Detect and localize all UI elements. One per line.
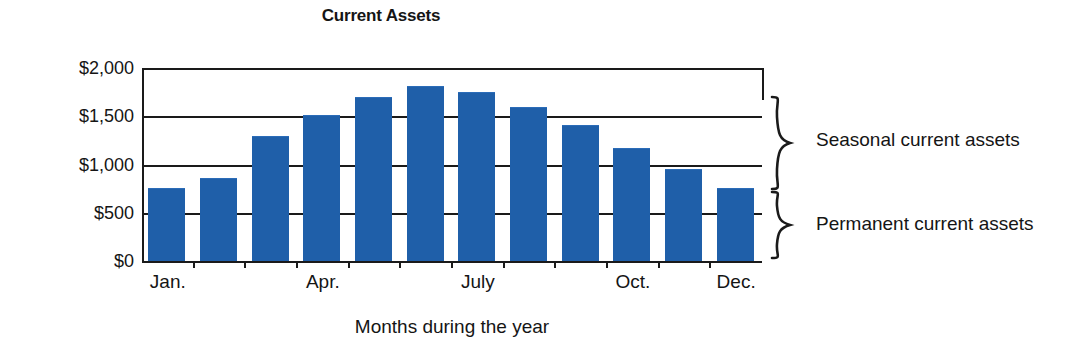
seasonal-assets-label: Seasonal current assets: [816, 128, 1066, 152]
x-axis-caption: Months during the year: [142, 316, 762, 338]
bar-jan: [148, 188, 185, 261]
bar-july: [458, 92, 495, 261]
bar-sept: [562, 125, 599, 261]
bar-feb: [200, 178, 237, 261]
chart-screenshot: Current Assets $2,000 $1,500 $1,000 $500…: [0, 0, 1070, 362]
x-tick-mark-11: [709, 261, 711, 268]
bar-june: [407, 86, 444, 261]
plot-right-edge: [762, 68, 764, 100]
x-tick-mark-2: [244, 261, 246, 268]
permanent-assets-label: Permanent current assets: [816, 212, 1066, 236]
x-tick-mark-3: [296, 261, 298, 268]
x-tick-label-july: July: [461, 271, 495, 293]
x-tick-label-jan: Jan.: [150, 271, 186, 293]
bar-dec: [717, 188, 754, 261]
bar-mar: [252, 136, 289, 261]
bar-apr: [303, 115, 340, 261]
y-axis-labels: $2,000 $1,500 $1,000 $500 $0: [10, 68, 134, 261]
y-tick-label-0: $0: [14, 251, 134, 272]
y-tick-label-500: $500: [14, 202, 134, 223]
bar-oct: [613, 148, 650, 261]
seasonal-brace-icon: [766, 95, 796, 191]
bar-aug: [510, 107, 547, 261]
chart-title: Current Assets: [0, 6, 762, 26]
x-tick-mark-5: [399, 261, 401, 268]
x-tick-mark-1: [193, 261, 195, 268]
bars-layer: [142, 68, 762, 261]
x-tick-mark-10: [658, 261, 660, 268]
y-tick-label-1500: $1,500: [14, 106, 134, 127]
x-tick-label-dec: Dec.: [717, 271, 756, 293]
bar-may: [355, 97, 392, 261]
x-tick-mark-4: [348, 261, 350, 268]
y-tick-label-1000: $1,000: [14, 154, 134, 175]
x-tick-mark-6: [451, 261, 453, 268]
y-tick-label-2000: $2,000: [14, 58, 134, 79]
y-tick-mark-0: [142, 261, 151, 263]
x-tick-mark-9: [606, 261, 608, 268]
x-tick-label-oct: Oct.: [615, 271, 650, 293]
bar-nov: [665, 169, 702, 261]
x-tick-mark-8: [554, 261, 556, 268]
permanent-brace-icon: [766, 190, 796, 260]
x-tick-label-apr: Apr.: [306, 271, 340, 293]
x-tick-mark-7: [503, 261, 505, 268]
